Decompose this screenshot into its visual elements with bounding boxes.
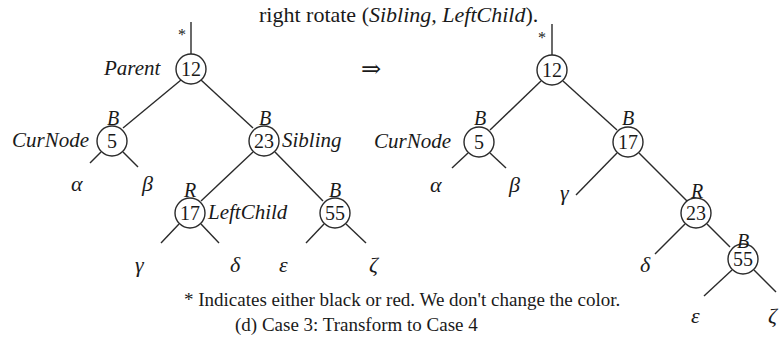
left-subtree-delta: δ: [230, 254, 240, 276]
left-node-23: 23: [249, 131, 279, 151]
right-color-17: B: [622, 108, 634, 128]
right-node-5: 5: [464, 132, 494, 152]
right-subtree-epsilon: ε: [691, 305, 700, 327]
left-node-12: 12: [176, 59, 206, 79]
right-subtree-beta: β: [509, 174, 520, 196]
right-color-23: R: [691, 181, 703, 201]
right-node-55: 55: [728, 249, 758, 269]
left-root-color-marker: *: [178, 27, 186, 43]
right-label-curnode: CurNode: [374, 131, 451, 152]
left-label-sibling: Sibling: [282, 130, 342, 151]
left-label-parent: Parent: [104, 58, 160, 79]
right-subtree-delta: δ: [640, 254, 650, 276]
figure-caption: (d) Case 3: Transform to Case 4: [235, 315, 478, 334]
left-subtree-alpha: α: [71, 173, 83, 195]
left-color-55: B: [329, 180, 341, 200]
left-label-leftchild: LeftChild: [208, 202, 287, 223]
left-subtree-gamma: γ: [135, 254, 144, 276]
right-subtree-zeta: ζ: [768, 305, 777, 327]
footnote: * Indicates either black or red. We don'…: [184, 290, 620, 309]
left-subtree-beta: β: [142, 173, 153, 195]
transform-arrow-icon: ⇒: [361, 57, 381, 81]
right-subtree-alpha: α: [430, 174, 442, 196]
left-node-55: 55: [320, 203, 350, 223]
left-node-5: 5: [97, 131, 127, 151]
right-subtree-gamma: γ: [560, 182, 569, 204]
left-color-17: R: [184, 180, 196, 200]
right-node-23: 23: [681, 203, 711, 223]
right-root-color-marker: *: [538, 30, 546, 46]
left-subtree-epsilon: ε: [279, 254, 288, 276]
right-node-12: 12: [537, 60, 567, 80]
left-color-23: B: [259, 108, 271, 128]
rotation-args: Sibling, LeftChild: [369, 2, 525, 27]
left-label-curnode: CurNode: [12, 130, 89, 151]
left-subtree-zeta: ζ: [369, 254, 378, 276]
rotation-title: right rotate (Sibling, LeftChild).: [259, 4, 538, 26]
right-color-5: B: [474, 108, 486, 128]
left-color-5: B: [107, 108, 119, 128]
right-node-17: 17: [613, 132, 643, 152]
left-node-17: 17: [175, 203, 205, 223]
